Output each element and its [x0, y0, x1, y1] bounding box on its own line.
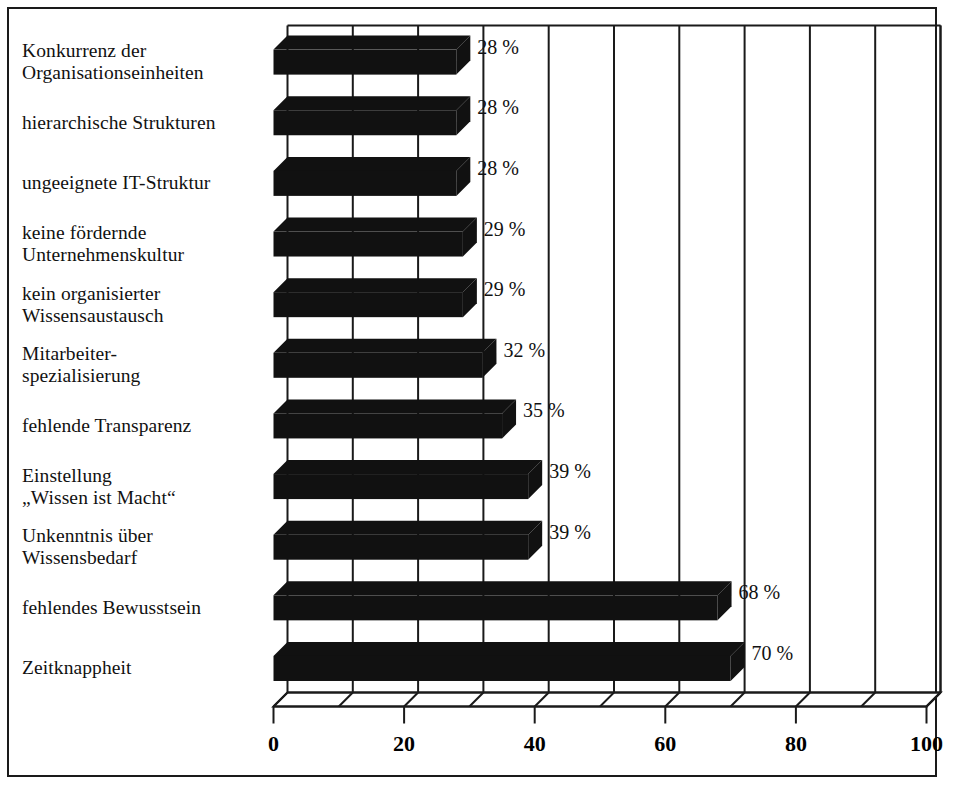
x-axis-tick-label: 40 [524, 731, 546, 756]
bar-chart-canvas: 28 %28 %28 %29 %29 %32 %35 %39 %39 %68 %… [0, 0, 967, 788]
bar-value-label: 32 % [503, 339, 545, 361]
bar-value-label: 70 % [752, 642, 794, 664]
bar-value-label: 28 % [477, 96, 519, 118]
bar-value-label: 35 % [523, 399, 565, 421]
x-axis-tick-label: 80 [785, 731, 807, 756]
chart-floor-3d [274, 693, 941, 707]
x-axis-tick-label: 60 [654, 731, 676, 756]
bar-value-label: 39 % [549, 460, 591, 482]
bar-value-label: 29 % [484, 218, 526, 240]
bar-value-label: 39 % [549, 521, 591, 543]
bar-value-labels: 28 %28 %28 %29 %29 %32 %35 %39 %39 %68 %… [477, 36, 793, 664]
bar-value-label: 28 % [477, 36, 519, 58]
x-axis-tick-label: 20 [393, 731, 415, 756]
bar-value-label: 28 % [477, 157, 519, 179]
x-axis-tick-label: 0 [268, 731, 279, 756]
bar-value-label: 29 % [484, 278, 526, 300]
bar-value-label: 68 % [739, 581, 781, 603]
x-axis-tick-labels: 020406080100 [268, 707, 943, 756]
chart-figure: Konkurrenz der Organisationseinheitenhie… [0, 0, 967, 788]
x-axis-tick-label: 100 [910, 731, 943, 756]
